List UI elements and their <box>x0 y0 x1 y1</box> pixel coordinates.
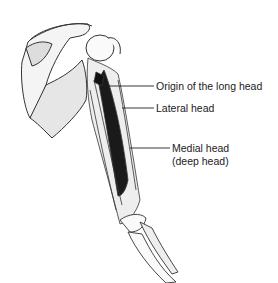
label-medial-head: Medial head <box>172 142 229 154</box>
anatomy-figure: Origin of the long head Lateral head Med… <box>0 0 278 283</box>
forearm-bones <box>120 214 178 283</box>
label-origin-long-head: Origin of the long head <box>156 80 262 92</box>
triceps-muscle <box>87 58 140 224</box>
humerus-head <box>86 35 120 61</box>
label-medial-head-deep: (deep head) <box>172 155 229 167</box>
label-lateral-head: Lateral head <box>156 102 214 114</box>
arm-illustration <box>0 0 278 283</box>
scapula <box>21 24 92 138</box>
